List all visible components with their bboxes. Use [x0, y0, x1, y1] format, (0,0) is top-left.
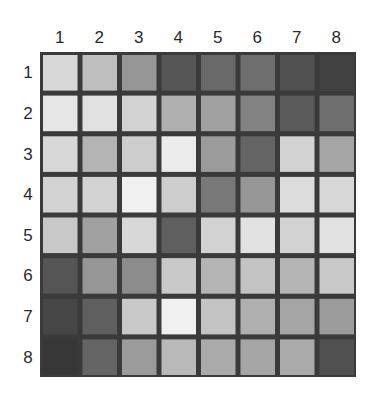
heatmap-cell-r1-c6: [241, 55, 276, 91]
heatmap-cell-r1-c7: [280, 55, 315, 91]
y-tick-label: 3: [23, 145, 32, 164]
heatmap-cell-r6-c6: [241, 258, 276, 294]
heatmap-cell-r6-c4: [162, 258, 197, 294]
heatmap-cell-r2-c2: [83, 96, 118, 132]
heatmap-cell-r6-c3: [122, 258, 157, 294]
heatmap-cell-r1-c2: [83, 55, 118, 91]
heatmap-cell-r7-c7: [280, 299, 315, 335]
x-tick-label: 5: [213, 28, 222, 47]
heatmap-cell-r2-c5: [201, 96, 236, 132]
heatmap-cell-r5-c4: [162, 218, 197, 254]
y-tick-labels: 12345678: [23, 63, 32, 366]
heatmap-cell-r6-c8: [320, 258, 355, 294]
y-tick-label: 6: [23, 266, 32, 285]
heatmap-cell-r8-c6: [241, 339, 276, 375]
y-tick-label: 2: [23, 104, 32, 123]
heatmap-cell-r5-c3: [122, 218, 157, 254]
heatmap-cell-r1-c8: [320, 55, 355, 91]
heatmap-chart: 12345678 12345678: [0, 0, 374, 400]
heatmap-cell-r4-c6: [241, 177, 276, 213]
heatmap-cell-r5-c8: [320, 218, 355, 254]
heatmap-cell-r4-c3: [122, 177, 157, 213]
heatmap-cell-r3-c5: [201, 136, 236, 172]
heatmap-cell-r4-c4: [162, 177, 197, 213]
heatmap-cell-r7-c4: [162, 299, 197, 335]
heatmap-cell-r7-c3: [122, 299, 157, 335]
heatmap-cell-r3-c7: [280, 136, 315, 172]
heatmap-cell-r1-c4: [162, 55, 197, 91]
heatmap-cell-r7-c2: [83, 299, 118, 335]
heatmap-cell-r3-c6: [241, 136, 276, 172]
y-tick-label: 8: [23, 348, 32, 367]
heatmap-cell-r6-c2: [83, 258, 118, 294]
heatmap-cell-r2-c7: [280, 96, 315, 132]
x-tick-label: 1: [55, 28, 64, 47]
heatmap-cell-r5-c6: [241, 218, 276, 254]
x-tick-label: 7: [292, 28, 301, 47]
heatmap-cell-r8-c2: [83, 339, 118, 375]
heatmap-cell-r2-c4: [162, 96, 197, 132]
heatmap-cell-r8-c5: [201, 339, 236, 375]
x-tick-label: 3: [134, 28, 143, 47]
heatmap-cell-r3-c1: [43, 136, 78, 172]
y-tick-label: 7: [23, 307, 32, 326]
heatmap-cell-r5-c7: [280, 218, 315, 254]
heatmap-cell-r8-c8: [320, 339, 355, 375]
heatmap-cell-r5-c1: [43, 218, 78, 254]
heatmap-cell-r8-c4: [162, 339, 197, 375]
heatmap-cell-r1-c1: [43, 55, 78, 91]
heatmap-cell-r2-c6: [241, 96, 276, 132]
heatmap-cell-r7-c6: [241, 299, 276, 335]
heatmap-cell-r4-c1: [43, 177, 78, 213]
heatmap-cell-r7-c1: [43, 299, 78, 335]
heatmap-cell-r1-c5: [201, 55, 236, 91]
x-tick-label: 8: [332, 28, 341, 47]
heatmap-cell-r3-c3: [122, 136, 157, 172]
y-tick-label: 1: [23, 63, 32, 82]
heatmap-cell-r4-c8: [320, 177, 355, 213]
heatmap-cell-r8-c1: [43, 339, 78, 375]
heatmap-cell-r8-c3: [122, 339, 157, 375]
heatmap-cell-r2-c3: [122, 96, 157, 132]
x-tick-label: 6: [253, 28, 262, 47]
heatmap-cell-r3-c8: [320, 136, 355, 172]
x-tick-labels: 12345678: [55, 28, 341, 47]
heatmap-cell-r4-c2: [83, 177, 118, 213]
heatmap-cell-r5-c5: [201, 218, 236, 254]
heatmap-cell-r2-c8: [320, 96, 355, 132]
heatmap-cell-r6-c7: [280, 258, 315, 294]
heatmap-cell-r7-c5: [201, 299, 236, 335]
heatmap-cell-r1-c3: [122, 55, 157, 91]
heatmap-cell-r8-c7: [280, 339, 315, 375]
y-tick-label: 5: [23, 226, 32, 245]
heatmap-cell-r2-c1: [43, 96, 78, 132]
heatmap-cell-r6-c1: [43, 258, 78, 294]
y-tick-label: 4: [23, 185, 32, 204]
heatmap-cell-r3-c4: [162, 136, 197, 172]
heatmap-cell-r5-c2: [83, 218, 118, 254]
x-tick-label: 4: [174, 28, 183, 47]
heatmap-cell-r4-c7: [280, 177, 315, 213]
heatmap-cell-r3-c2: [83, 136, 118, 172]
x-tick-label: 2: [95, 28, 104, 47]
heatmap-cell-r4-c5: [201, 177, 236, 213]
heatmap-cell-r7-c8: [320, 299, 355, 335]
heatmap-cell-r6-c5: [201, 258, 236, 294]
heatmap-cells: [40, 52, 356, 377]
